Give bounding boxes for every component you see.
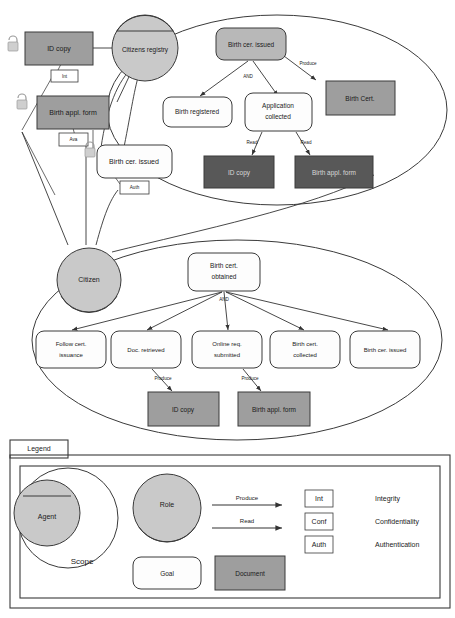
attribute-auth-label: Auth (130, 185, 140, 190)
document-birth-appl-form-bottom-label: Birth appl. form (252, 406, 296, 414)
document-birth-appl-form-top-label: Birth appl. form (312, 169, 356, 177)
goal-application-collected-label-2: collected (265, 113, 291, 120)
goal-birth-cer-issued-outside[interactable]: Birth cer. issued (97, 145, 172, 178)
read-label-left: Read (247, 140, 258, 145)
legend-arrow-read-label: Read (240, 518, 254, 524)
attribute-auth[interactable]: Auth (120, 181, 149, 194)
legend-attribute-conf-meaning: Confidentiality (375, 518, 419, 526)
goal-follow-cert-issuance-label-1: Follow cert. (56, 341, 87, 347)
legend-title: Legend (27, 445, 50, 453)
legend-goal-symbol: Goal (133, 557, 201, 589)
legend-document-label: Document (235, 570, 265, 577)
agent-citizens-registry-label: Citizens registry (122, 46, 169, 54)
document-id-copy-bottom[interactable]: ID copy (148, 392, 219, 426)
goal-birth-cert-obtained[interactable]: Birth cert. obtained (188, 253, 260, 291)
legend-attribute-int: Int Integrity (305, 490, 400, 507)
attribute-int[interactable]: Int (51, 70, 78, 82)
goal-online-req-submitted-label-1: Online req. (212, 341, 242, 347)
goal-birth-cert-collected-label-2: collected (293, 352, 317, 358)
edge-birthcerissued2-to-registry (123, 74, 139, 152)
produce-label-bottom-right: Produce (241, 376, 259, 381)
goal-birth-cer-issued-outside-label: Birth cer. issued (109, 158, 159, 165)
document-id-copy-top[interactable]: ID copy (204, 156, 274, 188)
read-label-right: Read (301, 140, 312, 145)
lock-icon (85, 142, 95, 157)
document-birth-appl-form-outside[interactable]: Birth appl. form (37, 96, 109, 129)
goal-doc-retrieved-label: Doc. retrieved (127, 347, 164, 353)
legend-attribute-conf-code: Conf (312, 518, 327, 525)
goal-follow-cert-issuance[interactable]: Follow cert. issuance (36, 331, 106, 368)
edge-top-produce-birthcert (284, 56, 316, 80)
legend-role-label: Role (160, 501, 175, 508)
legend-attribute-auth-meaning: Authentication (375, 541, 419, 548)
document-birth-cert-label: Birth Cert. (345, 95, 374, 102)
document-id-copy-outside-label: ID copy (47, 45, 71, 53)
lock-icon (17, 94, 27, 109)
legend-attribute-int-code: Int (315, 495, 323, 502)
attribute-ava[interactable]: Ava (59, 133, 88, 146)
legend-goal-label: Goal (160, 570, 174, 577)
produce-label-bottom-left: Produce (154, 376, 172, 381)
goal-birth-cer-issued-top[interactable]: Birth cer. issued (216, 28, 286, 60)
document-birth-appl-form-bottom[interactable]: Birth appl. form (238, 392, 310, 426)
role-citizen[interactable]: Citizen (57, 248, 121, 313)
goal-birth-cert-collected-label-1: Birth cert. (292, 341, 318, 347)
attribute-ava-label: Ava (70, 137, 78, 142)
legend-agent-label: Agent (38, 513, 56, 521)
legend-attribute-auth: Auth Authentication (305, 536, 419, 553)
diagram-canvas: Citizens registry Birth cer. issued AND … (0, 0, 455, 618)
goal-application-collected[interactable]: Application collected (245, 93, 312, 131)
goal-birth-registered-label: Birth registered (175, 108, 219, 116)
edge-citizen-to-idcopy-attr (22, 132, 68, 245)
edge-bottom-fan-5 (226, 292, 388, 330)
goal-birth-registered[interactable]: Birth registered (163, 97, 232, 127)
legend-arrow-produce: Produce (212, 495, 282, 505)
edge-top-and-right (253, 61, 278, 96)
legend-scope-label: Scope (71, 557, 94, 566)
document-birth-cert[interactable]: Birth Cert. (326, 81, 395, 115)
document-id-copy-bottom-label: ID copy (172, 406, 195, 414)
goal-online-req-submitted-label-2: submitted (214, 352, 240, 358)
goal-birth-cer-issued-bottom-label: Birth cer. issued (364, 347, 407, 353)
edge-bottom-fan-2 (147, 292, 222, 330)
legend-document-symbol: Document (215, 556, 285, 590)
legend-agent-symbol: Agent (14, 480, 80, 546)
edge-bottom-fan-4 (226, 292, 304, 330)
goal-birth-cert-collected[interactable]: Birth cert. collected (270, 331, 340, 368)
and-label-top: AND (243, 74, 253, 79)
document-id-copy-top-label: ID copy (228, 169, 251, 177)
legend-role-symbol: Role (133, 474, 201, 542)
lock-icon (8, 36, 18, 51)
document-birth-appl-form-outside-label: Birth appl. form (49, 109, 97, 117)
legend-arrow-produce-label: Produce (236, 495, 259, 501)
goal-online-req-submitted[interactable]: Online req. submitted (192, 331, 262, 368)
legend-attribute-auth-code: Auth (312, 541, 327, 548)
goal-birth-cert-obtained-label-1: Birth cert. (210, 262, 238, 269)
goal-follow-cert-issuance-label-2: issuance (59, 352, 83, 358)
goal-birth-cer-issued-top-label: Birth cer. issued (228, 41, 275, 48)
edge-ava-attr (22, 132, 55, 195)
role-citizen-label: Citizen (78, 276, 100, 283)
edge-citizen-to-goal (96, 190, 118, 245)
legend-attribute-int-meaning: Integrity (375, 495, 400, 503)
document-id-copy-outside[interactable]: ID copy (25, 32, 93, 65)
legend-attribute-conf: Conf Confidentiality (305, 513, 419, 530)
attribute-int-label: Int (62, 74, 68, 79)
agent-citizens-registry[interactable]: Citizens registry (112, 15, 178, 81)
document-birth-appl-form-top[interactable]: Birth appl. form (295, 156, 373, 188)
legend-arrow-read: Read (212, 518, 282, 528)
goal-birth-cert-obtained-label-2: obtained (212, 273, 237, 280)
goal-birth-cer-issued-bottom[interactable]: Birth cer. issued (350, 331, 420, 368)
goal-doc-retrieved[interactable]: Doc. retrieved (111, 331, 181, 368)
edge-top-and-left (200, 61, 248, 96)
produce-label-top: Produce (299, 61, 317, 66)
goal-application-collected-label-1: Application (262, 102, 294, 110)
